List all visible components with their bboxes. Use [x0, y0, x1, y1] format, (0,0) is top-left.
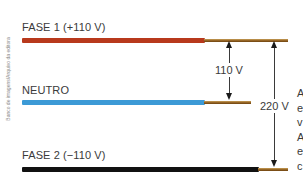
- edge-char: c: [297, 159, 303, 174]
- fase2-wire: [22, 167, 259, 172]
- edge-char: e: [297, 101, 303, 116]
- measurement-110v-label: 110 V: [215, 63, 243, 77]
- fase1-label: FASE 1 (+110 V): [22, 21, 106, 33]
- cropped-paragraph-text: A e v A e c: [297, 86, 303, 173]
- fase2-copper-core: [258, 168, 288, 171]
- fase2-label: FASE 2 (−110 V): [22, 149, 106, 161]
- fase1-wire: [22, 38, 205, 43]
- arrow-up-icon: [226, 41, 232, 48]
- edge-char: A: [297, 130, 303, 145]
- arrow-up-icon: [271, 41, 277, 48]
- neutro-label: NEUTRO: [22, 84, 69, 96]
- measurement-220v-label: 220 V: [260, 99, 289, 113]
- neutro-copper-core: [204, 101, 251, 104]
- image-credit: Banco de imagens/Arquivo da editora: [5, 19, 11, 139]
- arrow-down-icon: [226, 93, 232, 100]
- edge-char: e: [297, 144, 303, 159]
- edge-char: A: [297, 86, 303, 101]
- edge-char: v: [297, 115, 303, 130]
- neutro-wire: [22, 100, 205, 105]
- arrow-down-icon: [271, 160, 277, 167]
